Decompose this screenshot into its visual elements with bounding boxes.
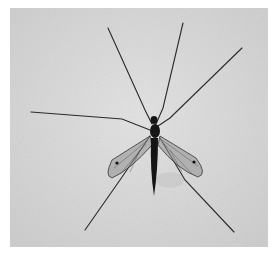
crane-fly-illustration [10,8,268,247]
thorax [150,124,160,138]
head [151,116,158,124]
crane-fly-photo [10,8,268,247]
photo-background [10,8,268,247]
